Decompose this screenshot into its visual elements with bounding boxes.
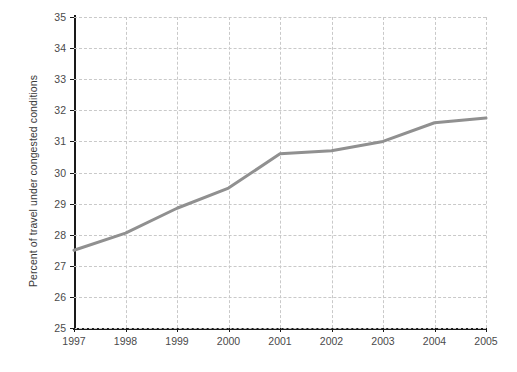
line-chart-figure: Percent of travel under congested condit… [0,0,517,372]
y-tick-label: 29 [54,198,66,210]
x-tick-label: 1999 [165,335,188,347]
x-tick-label: 2004 [423,335,446,347]
y-tick-label: 30 [54,167,66,179]
x-tick-mark [229,328,230,332]
x-tick-mark [486,328,487,332]
x-tick-label: 1998 [114,335,137,347]
y-tick-label: 26 [54,291,66,303]
x-tick-label: 2002 [320,335,343,347]
y-tick-label: 31 [54,135,66,147]
plot-area: 2526272829303132333435 19971998199920002… [74,17,486,328]
y-tick-label: 28 [54,229,66,241]
x-tick-mark [435,328,436,332]
y-axis-title: Percent of travel under congested condit… [22,11,44,351]
y-tick-label: 35 [54,11,66,23]
x-tick-mark [332,328,333,332]
x-tick-label: 2001 [268,335,291,347]
x-tick-mark [126,328,127,332]
x-tick-label: 1997 [62,335,85,347]
y-tick-label: 27 [54,260,66,272]
x-tick-mark [383,328,384,332]
gridline-vertical [486,17,487,328]
y-tick-label: 25 [54,322,66,334]
y-tick-label: 33 [54,73,66,85]
data-series-svg [74,17,486,328]
x-tick-mark [280,328,281,332]
x-tick-label: 2003 [371,335,394,347]
x-tick-label: 2000 [217,335,240,347]
x-tick-mark [177,328,178,332]
x-tick-mark [74,328,75,332]
x-tick-label: 2005 [474,335,497,347]
series-line-congestion [74,118,486,250]
y-tick-label: 34 [54,42,66,54]
y-tick-label: 32 [54,104,66,116]
